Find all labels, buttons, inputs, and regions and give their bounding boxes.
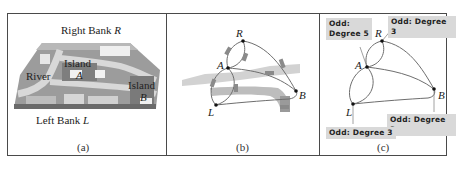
callout-degree-r: Odd: Degree 3 xyxy=(388,16,456,38)
node-label-l: L xyxy=(346,106,352,118)
callout-degree-l: Odd: Degree 3 xyxy=(326,127,396,139)
node-label-b: B xyxy=(438,89,445,101)
node-label-r: R xyxy=(375,27,382,39)
node-label-a: A xyxy=(355,59,362,71)
callout-degree-b: Odd: Degree 3 xyxy=(387,114,456,136)
callout-degree-a: Odd: Degree 5 xyxy=(326,18,372,40)
caption-c: (c) xyxy=(377,141,389,153)
